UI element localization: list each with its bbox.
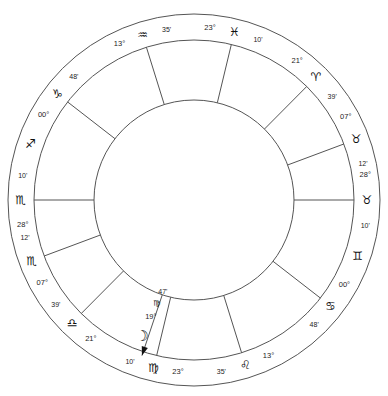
inner-house-circle xyxy=(94,100,294,300)
cusp-line-8 xyxy=(288,144,344,165)
cusp-line-12 xyxy=(68,102,115,139)
wheel-graphics xyxy=(0,0,388,396)
moon-arrow-head xyxy=(142,346,148,356)
cusp-line-11 xyxy=(146,47,164,104)
house-cusp-lines xyxy=(34,44,354,355)
astrology-chart-wheel: ♏28°10'♏07°12'♎21°39'♍23°10'♌13°35'♋00°4… xyxy=(0,0,388,396)
cusp-line-2 xyxy=(44,235,100,256)
cusp-line-5 xyxy=(224,295,242,352)
cusp-line-3 xyxy=(81,271,123,314)
cusp-line-6 xyxy=(273,261,320,298)
cusp-line-10 xyxy=(217,44,231,102)
cusp-line-9 xyxy=(264,86,306,129)
